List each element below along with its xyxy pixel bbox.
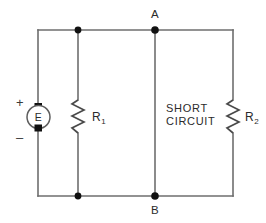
source-terminal-negative	[35, 125, 43, 132]
resistor-r1-symbol	[72, 100, 84, 133]
resistor-r2-letter: R	[245, 110, 254, 124]
resistor-r2-symbol	[227, 100, 239, 133]
node-dot-a	[151, 26, 159, 34]
voltage-source-label: E	[35, 111, 43, 123]
short-circuit-label-line1: SHORT	[166, 102, 208, 114]
junction-dot-bottom-r1	[75, 193, 82, 200]
short-circuit-label-line2: CIRCUIT	[166, 115, 216, 127]
resistor-r1-subscript: 1	[101, 117, 106, 126]
circuit-diagram-canvas: E + – A B R1 R2 SHORT CIRCUIT	[0, 0, 266, 223]
resistor-r2-subscript: 2	[254, 117, 259, 126]
resistor-r2-label: R2	[245, 110, 259, 126]
polarity-plus-label: +	[16, 95, 24, 110]
resistor-r1-label: R1	[92, 110, 106, 126]
circuit-schematic: E + – A B R1 R2 SHORT CIRCUIT	[0, 0, 266, 223]
node-label-a: A	[151, 8, 159, 20]
node-dot-b	[151, 192, 159, 200]
node-label-b: B	[151, 204, 159, 216]
resistor-r1-letter: R	[92, 110, 101, 124]
polarity-minus-label: –	[16, 130, 24, 145]
junction-dot-top-r1	[75, 27, 82, 34]
